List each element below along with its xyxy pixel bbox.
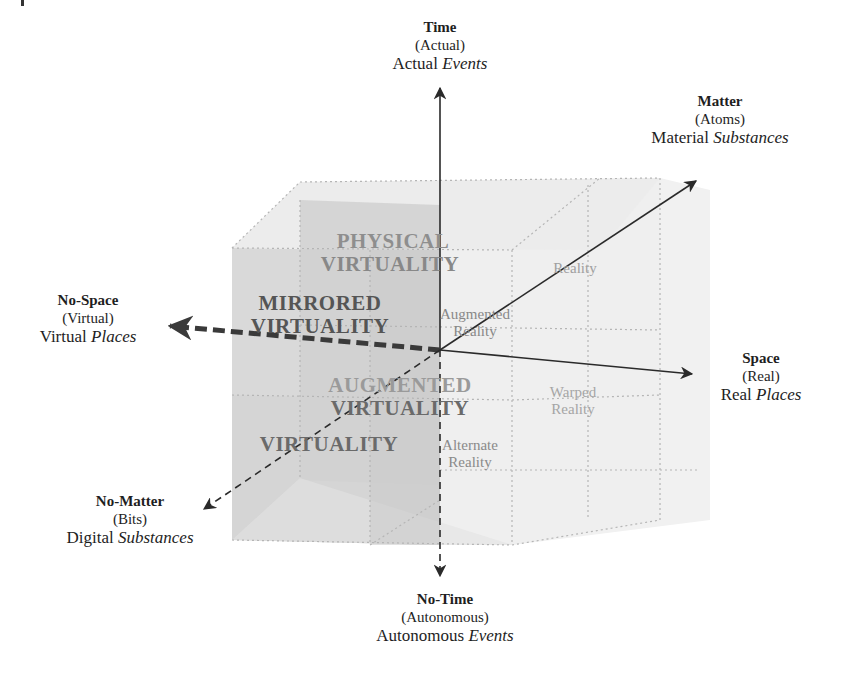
cell-reality: Reality	[540, 260, 610, 277]
no-space-subtitle: (Virtual)	[28, 309, 148, 327]
matter-title: Matter	[620, 92, 820, 110]
axis-label-time: Time (Actual) Actual Events	[370, 18, 510, 74]
space-description: Real Places	[706, 385, 816, 405]
cell-augmented-reality: Augmented Reality	[420, 306, 530, 339]
time-subtitle: (Actual)	[370, 36, 510, 54]
cell-augmented-virtuality: AUGMENTED VIRTUALITY	[310, 374, 490, 420]
no-time-description: Autonomous Events	[360, 626, 530, 646]
space-title: Space	[706, 349, 816, 367]
no-time-title: No-Time	[360, 590, 530, 608]
axis-label-no-matter: No-Matter (Bits) Digital Substances	[50, 492, 210, 548]
matter-description: Material Substances	[620, 128, 820, 148]
axis-label-matter: Matter (Atoms) Material Substances	[620, 92, 820, 148]
mirror-worlds-cube-diagram: Time (Actual) Actual Events Matter (Atom…	[0, 0, 862, 683]
axis-label-no-time: No-Time (Autonomous) Autonomous Events	[360, 590, 530, 646]
space-subtitle: (Real)	[706, 367, 816, 385]
no-space-title: No-Space	[28, 291, 148, 309]
cell-alternate-reality: Alternate Reality	[420, 437, 520, 470]
time-title: Time	[370, 18, 510, 36]
axis-label-space: Space (Real) Real Places	[706, 349, 816, 405]
no-matter-subtitle: (Bits)	[50, 510, 210, 528]
cell-mirrored-virtuality: MIRRORED VIRTUALITY	[240, 292, 400, 338]
cell-physical-virtuality: PHYSICAL VIRTUALITY	[300, 230, 480, 276]
no-matter-title: No-Matter	[50, 492, 210, 510]
matter-subtitle: (Atoms)	[620, 110, 820, 128]
no-matter-description: Digital Substances	[50, 528, 210, 548]
no-time-subtitle: (Autonomous)	[360, 608, 530, 626]
no-space-description: Virtual Places	[28, 327, 148, 347]
axis-label-no-space: No-Space (Virtual) Virtual Places	[28, 291, 148, 347]
cell-warped-reality: Warped Reality	[538, 384, 608, 417]
time-description: Actual Events	[370, 54, 510, 74]
cell-virtuality: VIRTUALITY	[244, 433, 414, 456]
